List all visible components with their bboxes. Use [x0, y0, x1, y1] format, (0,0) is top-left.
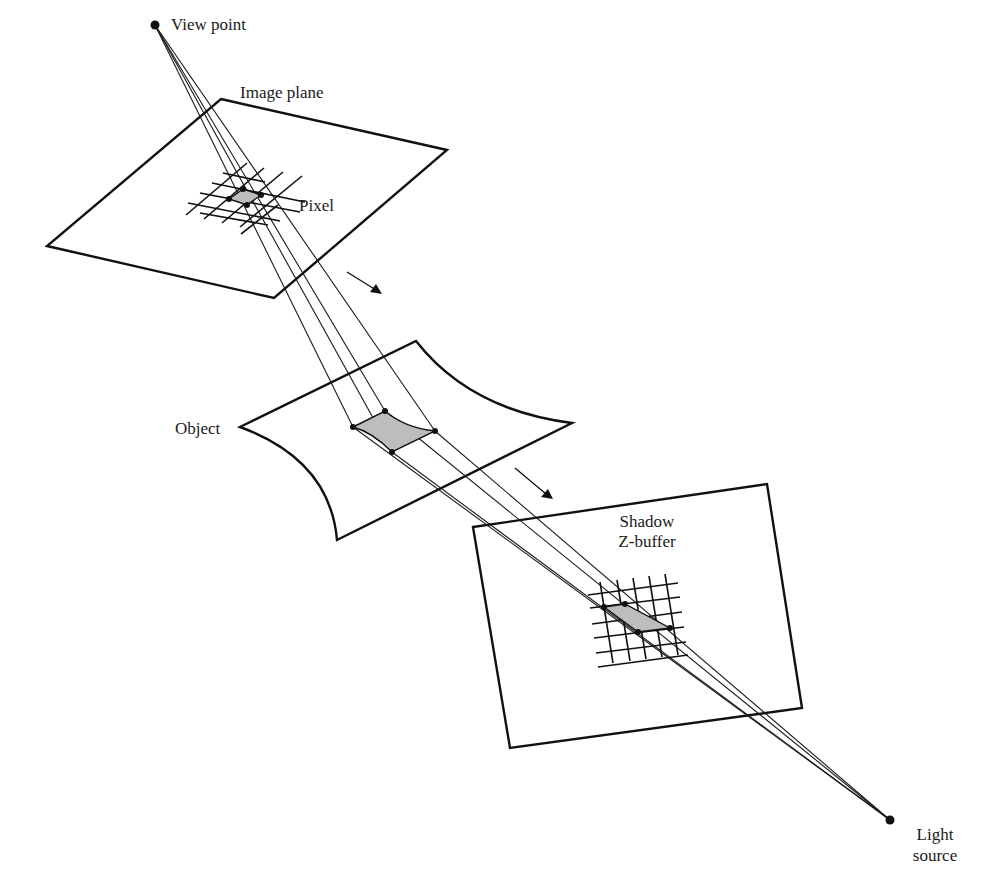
arrow-icon — [515, 468, 553, 499]
label-image-plane: Image plane — [240, 83, 324, 102]
object-patch — [353, 411, 435, 452]
label-light: Light — [917, 825, 954, 844]
view-point-dot — [151, 21, 160, 30]
shadow-zbuffer-diagram: View point Image plane Pixel Object Shad… — [0, 0, 987, 891]
label-view-point: View point — [171, 15, 246, 34]
label-pixel: Pixel — [299, 196, 334, 215]
label-shadow: Shadow — [620, 512, 676, 531]
arrow-icon — [347, 272, 382, 294]
label-source: source — [913, 846, 957, 865]
light-source-dot — [886, 816, 895, 825]
label-zbuffer: Z-buffer — [618, 532, 676, 551]
label-object: Object — [175, 419, 221, 438]
